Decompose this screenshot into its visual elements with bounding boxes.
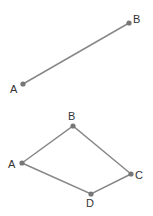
figure-segment-ab: A B (10, 13, 140, 95)
point-a (19, 160, 24, 165)
label-b: B (133, 13, 140, 25)
point-a (20, 81, 25, 86)
geometry-diagram: A B A B C D (0, 0, 153, 216)
label-b: B (68, 110, 75, 122)
label-a: A (8, 158, 16, 170)
point-c (128, 171, 133, 176)
label-d: D (86, 197, 94, 209)
label-c: C (135, 169, 143, 181)
label-a: A (10, 83, 18, 95)
point-b (126, 20, 131, 25)
segment-ab (23, 23, 129, 84)
point-d (88, 191, 93, 196)
quadrilateral-abcd (22, 126, 131, 194)
point-b (70, 123, 75, 128)
figure-quadrilateral-abcd: A B C D (8, 110, 143, 209)
